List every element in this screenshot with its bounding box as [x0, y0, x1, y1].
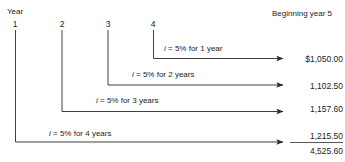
- flow-label-4-years: i = 5% for 4 years: [49, 129, 111, 139]
- year-marker-3: 3: [103, 19, 113, 29]
- flow-path-year-1: [16, 30, 284, 142]
- flow-label-1-year-text: = 5% for 1 year: [166, 44, 223, 53]
- year-marker-1: 1: [10, 19, 20, 29]
- amount-value-4: 1,215.50: [287, 131, 343, 141]
- flow-label-2-years: i = 5% for 2 years: [132, 70, 194, 80]
- flow-label-3-years-text: = 5% for 3 years: [98, 96, 159, 105]
- year-marker-2: 2: [57, 19, 67, 29]
- amount-value-1: $1,050.00: [287, 54, 343, 64]
- amount-total: 4,525.60: [287, 146, 343, 156]
- amount-value-2: 1,102.50: [287, 81, 343, 91]
- axis-title-year: Year: [7, 7, 23, 17]
- amount-value-3: 1,157.60: [287, 104, 343, 114]
- year-marker-4: 4: [148, 19, 158, 29]
- flow-label-1-year: i = 5% for 1 year: [164, 44, 222, 54]
- flow-label-3-years: i = 5% for 3 years: [96, 96, 158, 106]
- header-beginning-year-5: Beginning year 5: [272, 9, 332, 19]
- flow-label-2-years-text: = 5% for 2 years: [134, 70, 195, 79]
- flow-label-4-years-text: = 5% for 4 years: [51, 129, 112, 138]
